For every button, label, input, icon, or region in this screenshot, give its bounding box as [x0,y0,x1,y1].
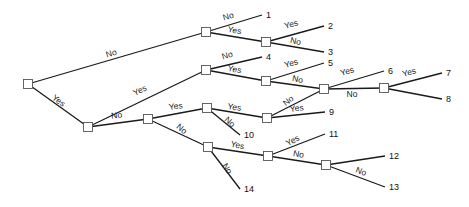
leaf-number: 11 [329,129,338,139]
decision-node [320,85,329,94]
tree-edge [148,119,208,147]
decision-node [322,161,331,170]
decision-node [24,80,33,89]
leaf-number: 3 [328,47,333,57]
edge-label: No [175,121,190,136]
decision-node [262,77,271,86]
leaf-number: 8 [446,94,451,104]
leaf-number: 6 [388,66,393,76]
leaf-number: 9 [329,107,334,117]
leaf-number: 5 [328,58,333,68]
leaf-number: 12 [389,151,399,161]
edge-label: Yes [131,83,148,98]
tree-edge [28,32,206,84]
edge-label: No [221,49,234,62]
leaf-number: 4 [266,52,271,62]
decision-node [263,114,272,123]
decision-node [144,115,153,124]
leaf-number: 10 [244,130,254,140]
decision-nodes [24,28,389,170]
leaf-number: 2 [328,21,333,31]
leaf-number: 14 [244,184,254,194]
edge-label: Yes [401,65,417,78]
edge-label: No [223,114,238,129]
decision-tree-diagram: NoYesNoYesYesNoYesNoNoYesYesNoYesNoYesYe… [0,0,469,207]
edge-label: Yes [283,17,299,30]
edge-label: Yes [283,56,299,69]
leaf-number: 1 [266,10,271,20]
edge-label: Yes [284,133,301,148]
decision-node [202,66,211,75]
leaf-labels: 1234567891011121314 [244,10,451,194]
decision-node [202,28,211,37]
tree-edge [326,156,385,165]
edge-label: No [289,35,302,47]
edge-label: No [292,148,305,160]
decision-node [84,123,93,132]
edge-label: No [220,161,234,176]
edge-label: Yes [50,92,67,108]
leaf-number: 7 [446,68,451,78]
edge-label: Yes [289,102,304,114]
edge-label: Yes [227,24,242,36]
decision-node [380,84,389,93]
edge-label: No [111,109,123,120]
edge-label: Yes [230,139,246,152]
edge-labels: NoYesNoYesYesNoYesNoNoYesYesNoYesNoYesYe… [50,10,417,178]
decision-node [262,38,271,47]
edge-label: Yes [339,64,355,77]
edge-label: Yes [227,101,242,113]
decision-node [203,104,212,113]
tree-edge [384,88,442,99]
edge-label: Yes [227,63,242,75]
edge-label: No [105,47,118,60]
edge-label: No [347,89,358,99]
edge-label: No [222,10,235,23]
edge-label: Yes [168,100,183,112]
edge-label: No [291,73,304,85]
decision-node [264,152,273,161]
leaf-number: 13 [389,182,399,192]
decision-node [204,143,213,152]
